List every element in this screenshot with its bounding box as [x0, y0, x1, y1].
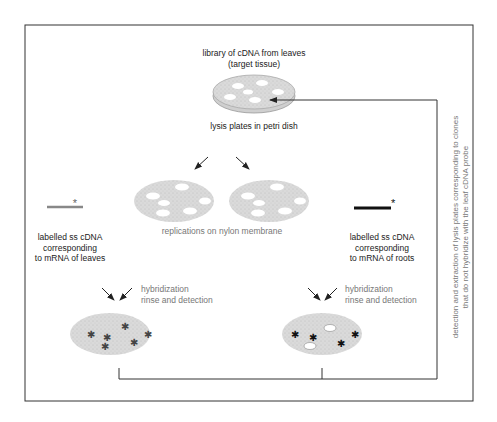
- svg-text:✱: ✱: [351, 329, 359, 340]
- petri-dish: [213, 75, 295, 113]
- side-note-line2: that do not hybridize with the leaf cDNA…: [461, 82, 471, 372]
- probe-roots-line2: corresponding: [337, 243, 427, 254]
- replication-caption: replications on nylon membrane: [152, 226, 292, 237]
- arrow-hybridize-right-b: [325, 288, 337, 300]
- side-note-line1: detection and extraction of lysis plates…: [451, 82, 461, 372]
- svg-text:✱: ✱: [130, 337, 138, 348]
- probe-leaves-line2: corresponding: [25, 243, 115, 254]
- probe-roots-line1: labelled ss cDNA: [337, 232, 427, 243]
- library-label-line2: (target tissue): [194, 59, 314, 70]
- step-left-line2: rinse and detection: [141, 295, 213, 306]
- step-left-line1: hybridization: [141, 284, 213, 295]
- svg-text:✱: ✱: [144, 329, 152, 340]
- svg-text:✱: ✱: [121, 321, 129, 332]
- svg-text:✱: ✱: [337, 338, 345, 349]
- dish-caption: lysis plates in petri dish: [194, 121, 314, 132]
- probe-leaves-line1: labelled ss cDNA: [25, 232, 115, 243]
- probe-leaves-marker: *: [45, 198, 105, 209]
- side-note: detection and extraction of lysis plates…: [451, 82, 471, 372]
- arrow-hybridize-right-a: [308, 288, 320, 300]
- step-right-line1: hybridization: [345, 284, 417, 295]
- library-label: library of cDNA from leaves (target tiss…: [194, 48, 314, 69]
- probe-roots-label: labelled ss cDNA corresponding to mRNA o…: [337, 232, 427, 264]
- svg-text:✱: ✱: [87, 329, 95, 340]
- svg-text:✱: ✱: [309, 332, 317, 343]
- arrow-hybridize-left-a: [102, 288, 114, 300]
- membrane-result-roots: ✱ ✱ ✱ ✱: [282, 313, 362, 355]
- library-label-line1: library of cDNA from leaves: [194, 48, 314, 59]
- svg-text:✱: ✱: [291, 329, 299, 340]
- step-right-line2: rinse and detection: [345, 295, 417, 306]
- probe-leaves-label: labelled ss cDNA corresponding to mRNA o…: [25, 232, 115, 264]
- step-left-label: hybridization rinse and detection: [141, 284, 213, 305]
- arrow-hybridize-left-b: [120, 288, 132, 300]
- arrow-down-right: [236, 157, 249, 169]
- step-right-label: hybridization rinse and detection: [345, 284, 417, 305]
- probe-leaves-line3: to mRNA of leaves: [25, 253, 115, 264]
- probe-roots-line3: to mRNA of roots: [337, 253, 427, 264]
- arrow-down-left: [195, 157, 208, 169]
- membrane-replica-left: [134, 180, 214, 222]
- svg-text:✱: ✱: [101, 341, 109, 352]
- membrane-result-leaves: ✱ ✱ ✱ ✱ ✱ ✱: [70, 313, 152, 355]
- membrane-replica-right: [229, 180, 309, 222]
